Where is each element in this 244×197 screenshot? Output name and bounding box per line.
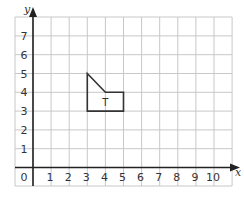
y-axis-label: y [23,3,31,16]
x-tick-label: 7 [155,171,162,184]
x-tick-label: 4 [101,171,108,184]
y-tick-label: 2 [21,124,28,137]
y-tick-label: 6 [21,49,28,62]
x-tick-label: 0 [21,171,28,184]
y-tick-label: 7 [21,30,28,43]
x-tick-label: 5 [119,171,126,184]
x-tick-label: 8 [173,171,180,184]
tick-labels: 0123456789101234567 [21,30,221,184]
y-tick-label: 1 [21,143,28,156]
y-tick-label: 5 [21,68,28,81]
x-tick-label: 10 [206,171,220,184]
y-tick-label: 4 [21,86,28,99]
x-tick-label: 9 [191,171,198,184]
coordinate-grid: 0123456789101234567 T x y [0,0,244,197]
x-tick-label: 2 [65,171,72,184]
shape-t-label: T [101,97,109,108]
axes [15,7,240,186]
x-axis-label: x [235,166,242,179]
x-tick-label: 1 [47,171,54,184]
x-tick-label: 3 [83,171,90,184]
y-tick-label: 3 [21,105,28,118]
x-tick-label: 6 [137,171,144,184]
